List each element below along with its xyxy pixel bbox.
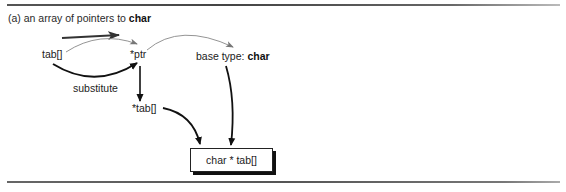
substitute-arc: [53, 63, 137, 77]
heading-prefix: (a) an array of pointers to: [8, 12, 129, 24]
top-straight-arrow: [62, 35, 119, 38]
figure-heading: (a) an array of pointers to char: [8, 12, 151, 24]
node-deref-tab: *tab[]: [132, 102, 157, 114]
base-type-bold: char: [247, 50, 269, 62]
result-declaration-box: char * tab[]: [190, 148, 273, 172]
node-ptr: *ptr: [130, 48, 146, 60]
base-type-prefix: base type:: [196, 50, 247, 62]
node-tab: tab[]: [42, 48, 62, 60]
basetype-to-result-arrow: [226, 66, 233, 145]
node-base-type: base type: char: [196, 50, 270, 62]
heading-bold-type: char: [129, 12, 151, 24]
bottom-rule: [7, 181, 560, 183]
edge-label-substitute: substitute: [73, 82, 118, 94]
diagram-arrows: [0, 0, 566, 192]
tab-to-ptr-thin-arc: [66, 39, 137, 52]
top-rule: [7, 4, 560, 6]
ptr-to-basetype-arc: [147, 35, 233, 50]
result-declaration-text: char * tab[]: [206, 154, 257, 166]
deref-to-result-arrow: [163, 108, 200, 144]
